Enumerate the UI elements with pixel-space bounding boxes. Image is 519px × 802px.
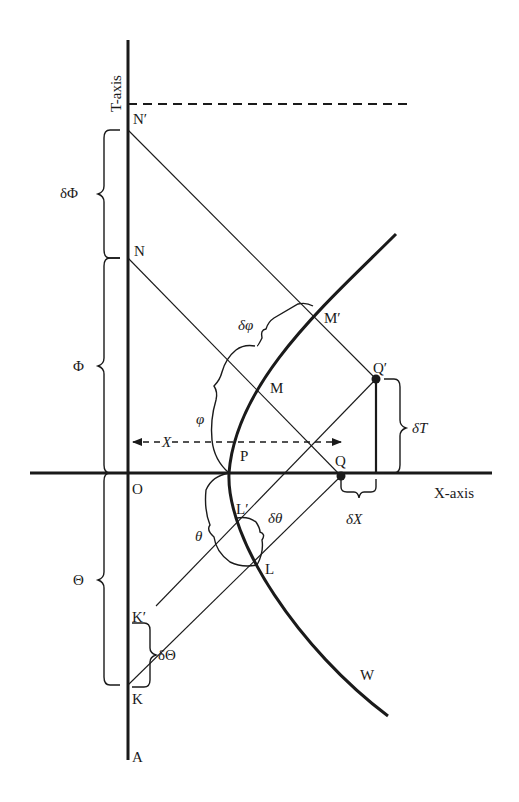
label-delta-Phi: δΦ — [60, 185, 78, 201]
label-W: W — [360, 667, 375, 683]
brace-delta-Phi — [98, 130, 120, 258]
label-L: L — [265, 561, 274, 577]
label-K: K — [132, 691, 143, 707]
label-delta-X: δX — [346, 511, 363, 527]
label-A: A — [132, 749, 143, 765]
ray-N-prime-Q-prime — [128, 130, 376, 379]
label-O: O — [132, 481, 143, 497]
label-N-prime: N′ — [133, 111, 147, 127]
brace-delta-T — [384, 379, 406, 473]
label-X-distance: X — [161, 434, 172, 450]
label-delta-theta: δθ — [268, 510, 283, 526]
label-M-prime: M′ — [324, 310, 341, 326]
t-axis-label: T-axis — [108, 75, 124, 112]
label-P: P — [240, 448, 248, 464]
brace-Phi — [98, 258, 120, 473]
wavefront-diagram: T-axis X-axis N′ N M′ M P O Q Q′ L′ L K′… — [0, 0, 519, 802]
label-delta-T: δT — [412, 420, 429, 436]
label-K-prime: K′ — [132, 609, 146, 625]
label-delta-Theta: δΘ — [158, 647, 176, 663]
label-phi: φ — [196, 411, 204, 427]
brace-delta-theta — [237, 518, 264, 566]
brace-Theta — [98, 473, 120, 685]
label-Phi: Φ — [73, 358, 84, 374]
label-Q: Q — [335, 453, 346, 469]
x-axis-label: X-axis — [434, 485, 474, 501]
label-delta-phi: δφ — [238, 317, 253, 333]
label-N: N — [134, 243, 145, 259]
label-M: M — [270, 380, 283, 396]
label-L-prime: L′ — [236, 501, 248, 517]
label-Q-prime: Q′ — [373, 360, 387, 376]
label-theta: θ — [195, 528, 203, 544]
label-Theta: Θ — [73, 572, 84, 588]
brace-delta-X — [341, 479, 376, 498]
